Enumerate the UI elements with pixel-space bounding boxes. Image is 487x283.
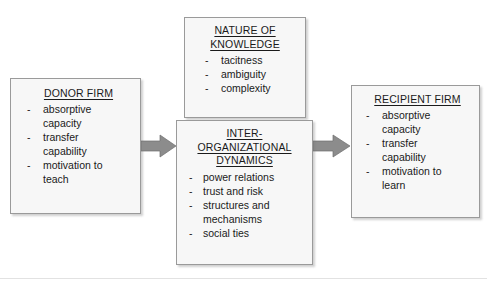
list-item-label: power relations <box>203 171 274 183</box>
bullet-dash: - <box>27 158 31 172</box>
list-item: -motivation to <box>352 164 479 178</box>
list-item-label: capability <box>43 145 87 157</box>
list-item: -complexity <box>185 81 305 95</box>
list-item: -absorptive <box>11 102 140 116</box>
list-item: teach <box>11 172 140 186</box>
list-item-label: capability <box>382 151 426 163</box>
list-item: -ambiguity <box>185 67 305 81</box>
donor-firm-title: DONOR FIRM <box>11 87 140 101</box>
list-item: -social ties <box>177 226 312 240</box>
nature-of-knowledge-box: NATURE OF KNOWLEDGE -tacitness -ambiguit… <box>184 17 306 118</box>
nature-of-knowledge-title: NATURE OF KNOWLEDGE <box>185 24 305 51</box>
inter-org-title-line-2: ORGANIZATIONAL <box>197 141 291 153</box>
bullet-dash: - <box>205 67 209 81</box>
donor-firm-title-text: DONOR FIRM <box>44 87 113 99</box>
bullet-dash: - <box>205 81 209 95</box>
diagram-canvas: DONOR FIRM -absorptive capacity -transfe… <box>0 0 487 283</box>
list-item: learn <box>352 178 479 192</box>
list-item: capacity <box>352 122 479 136</box>
nature-of-knowledge-title-line-1: NATURE OF <box>214 24 275 36</box>
list-item: -tacitness <box>185 53 305 67</box>
list-item: -motivation to <box>11 158 140 172</box>
bullet-dash: - <box>189 226 193 240</box>
list-item-label: learn <box>382 179 405 191</box>
bullet-dash: - <box>27 130 31 144</box>
inter-org-title-line-1: INTER- <box>227 127 263 139</box>
inter-organizational-dynamics-list: -power relations -trust and risk -struct… <box>177 170 312 240</box>
list-item-label: absorptive <box>382 109 430 121</box>
list-item: -transfer <box>11 130 140 144</box>
list-item-label: capacity <box>43 117 82 129</box>
list-item-label: transfer <box>382 137 418 149</box>
list-item-label: motivation to <box>382 165 442 177</box>
list-item: -trust and risk <box>177 184 312 198</box>
list-item-label: trust and risk <box>203 185 263 197</box>
bullet-dash: - <box>189 184 193 198</box>
inter-organizational-dynamics-title: INTER- ORGANIZATIONAL DYNAMICS <box>177 127 312 168</box>
list-item: -transfer <box>352 136 479 150</box>
list-item-label: capacity <box>382 123 421 135</box>
nature-of-knowledge-title-line-2: KNOWLEDGE <box>210 38 280 50</box>
recipient-firm-title: RECIPIENT FIRM <box>352 93 479 107</box>
recipient-firm-box: RECIPIENT FIRM -absorptive capacity -tra… <box>351 85 480 218</box>
list-item: -power relations <box>177 170 312 184</box>
list-item-label: absorptive <box>43 103 91 115</box>
list-item-label: motivation to <box>43 159 103 171</box>
list-item: capability <box>11 144 140 158</box>
list-item: mechanisms <box>177 212 312 226</box>
list-item: -absorptive <box>352 108 479 122</box>
bottom-divider <box>0 278 487 279</box>
list-item-label: mechanisms <box>203 213 262 225</box>
bullet-dash: - <box>366 108 370 122</box>
list-item-label: tacitness <box>221 54 262 66</box>
arrow-right-icon-donor-to-inter <box>141 133 177 159</box>
bullet-dash: - <box>366 164 370 178</box>
bullet-dash: - <box>205 53 209 67</box>
list-item: capacity <box>11 116 140 130</box>
inter-org-title-line-3: DYNAMICS <box>216 154 273 166</box>
list-item-label: teach <box>43 173 69 185</box>
bullet-dash: - <box>189 170 193 184</box>
list-item: capability <box>352 150 479 164</box>
donor-firm-list: -absorptive capacity -transfer capabilit… <box>11 102 140 186</box>
recipient-firm-list: -absorptive capacity -transfer capabilit… <box>352 108 479 192</box>
bullet-dash: - <box>366 136 370 150</box>
recipient-firm-title-text: RECIPIENT FIRM <box>374 93 461 105</box>
list-item-label: ambiguity <box>221 68 266 80</box>
bullet-dash: - <box>189 198 193 212</box>
list-item-label: social ties <box>203 227 249 239</box>
list-item-label: transfer <box>43 131 79 143</box>
list-item: -structures and <box>177 198 312 212</box>
inter-organizational-dynamics-box: INTER- ORGANIZATIONAL DYNAMICS -power re… <box>176 120 313 265</box>
donor-firm-box: DONOR FIRM -absorptive capacity -transfe… <box>10 78 141 214</box>
nature-of-knowledge-list: -tacitness -ambiguity -complexity <box>185 53 305 95</box>
list-item-label: structures and <box>203 199 270 211</box>
arrow-right-icon-inter-to-recipient <box>313 133 351 159</box>
list-item-label: complexity <box>221 82 271 94</box>
bullet-dash: - <box>27 102 31 116</box>
